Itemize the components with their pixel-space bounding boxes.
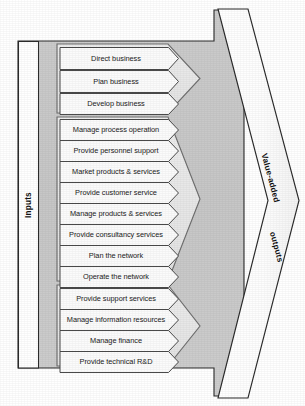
inputs-band: Inputs [19, 42, 39, 369]
process-label: Plan the network [89, 251, 144, 260]
process-chevron[interactable]: Direct business [60, 48, 179, 70]
process-label: Provide customer service [75, 188, 157, 197]
process-chevron[interactable]: Plan business [60, 71, 179, 93]
process-chevron[interactable]: Provide personnel support [60, 141, 179, 162]
process-label: Provide consultancy services [69, 230, 163, 239]
inputs-label: Inputs [24, 192, 33, 218]
diagram-canvas: Inputs Value-added outputs Direct busine… [0, 0, 305, 406]
process-label: Market products & services [72, 167, 160, 176]
process-label: Direct business [91, 54, 141, 63]
process-chevron[interactable]: Manage finance [60, 331, 179, 352]
process-label: Manage process operation [73, 125, 159, 134]
process-chevron[interactable]: Plan the network [60, 246, 179, 267]
process-label: Provide personnel support [73, 146, 158, 155]
process-chevron[interactable]: Provide consultancy services [60, 225, 179, 246]
process-chevron[interactable]: Provide support services [60, 289, 179, 310]
process-chevron[interactable]: Market products & services [60, 162, 179, 183]
process-chevron[interactable]: Develop business [60, 94, 179, 115]
process-label: Plan business [93, 77, 139, 86]
process-label: Manage finance [90, 336, 142, 345]
process-chevron[interactable]: Manage information resources [60, 310, 179, 331]
process-chevron[interactable]: Provide technical R&D [60, 352, 179, 373]
process-chevron[interactable]: Provide customer service [60, 183, 179, 204]
process-chevron[interactable]: Manage products & services [60, 204, 179, 225]
process-label: Operate the network [83, 272, 149, 281]
process-label: Provide technical R&D [80, 357, 153, 366]
process-label: Manage products & services [70, 209, 162, 218]
process-chevron[interactable]: Manage process operation [60, 120, 179, 141]
process-label: Manage information resources [67, 315, 166, 324]
process-label: Provide support services [76, 294, 156, 303]
value-chain-diagram: Inputs Value-added outputs Direct busine… [0, 0, 305, 406]
process-label: Develop business [87, 99, 145, 108]
process-chevron[interactable]: Operate the network [60, 267, 179, 288]
